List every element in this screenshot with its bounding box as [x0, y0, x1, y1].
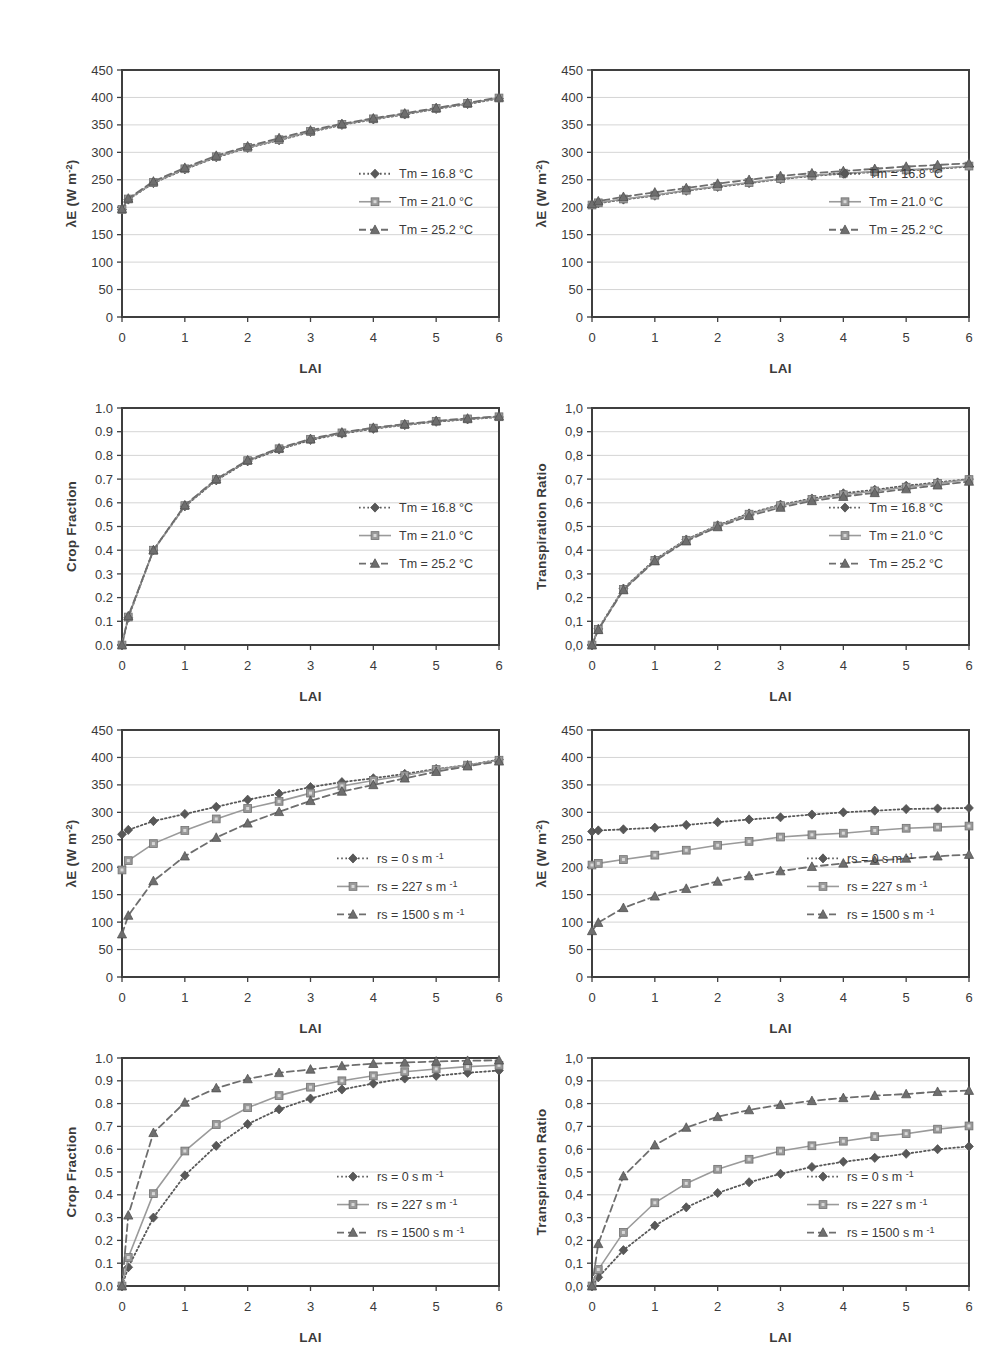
legend-label: Tm = 25.2 °C	[869, 557, 943, 571]
y-tick-label: 300	[91, 145, 113, 160]
data-point	[124, 857, 132, 865]
legend-label: Tm = 16.8 °C	[399, 167, 473, 181]
legend: Tm = 16.8 °CTm = 21.0 °CTm = 25.2 °C	[359, 501, 473, 571]
y-tick-label: 250	[561, 832, 583, 847]
x-axis-title: LAI	[299, 361, 321, 376]
data-point	[934, 1125, 942, 1133]
y-axis-title: Crop Fraction	[64, 1126, 79, 1217]
legend-marker	[349, 1201, 357, 1209]
legend: Tm = 16.8 °CTm = 21.0 °CTm = 25.2 °C	[829, 167, 943, 237]
svg-text:λE (W m-2): λE (W m-2)	[534, 820, 549, 888]
legend: rs = 0 s m -1rs = 227 s m -1rs = 1500 s …	[807, 851, 935, 922]
chart-panel: 0501001502002503003504004500123456LAIλE …	[60, 40, 515, 395]
legend-label: Tm = 16.8 °C	[869, 167, 943, 181]
data-series	[587, 1086, 973, 1290]
data-point	[965, 822, 973, 830]
x-tick-label: 3	[307, 658, 314, 673]
y-axis: 050100150200250300350400450	[91, 723, 122, 985]
data-point	[307, 1083, 315, 1091]
y-tick-label: 0.5	[95, 1165, 113, 1180]
data-series	[118, 1066, 504, 1291]
data-point	[651, 1199, 659, 1207]
y-axis-title: Crop Fraction	[64, 481, 79, 572]
x-tick-label: 5	[433, 1299, 440, 1314]
x-axis: 0123456	[588, 1286, 972, 1314]
y-tick-label: 300	[561, 145, 583, 160]
legend-marker	[349, 883, 357, 891]
legend-label: Tm = 16.8 °C	[399, 501, 473, 515]
data-point	[650, 1140, 659, 1149]
svg-text:λE (W m-2): λE (W m-2)	[534, 160, 549, 228]
x-tick-label: 4	[840, 990, 847, 1005]
data-point	[745, 838, 753, 846]
x-tick-label: 4	[370, 1299, 377, 1314]
x-axis-title: LAI	[769, 361, 791, 376]
y-axis-title: Transpiration Ratio	[534, 1109, 549, 1236]
x-tick-label: 0	[588, 1299, 595, 1314]
y-tick-label: 0	[106, 310, 113, 325]
y-tick-label: 0.0	[95, 638, 113, 653]
y-tick-label: 350	[91, 117, 113, 132]
data-point	[870, 1153, 879, 1162]
y-tick-label: 0.8	[95, 1096, 113, 1111]
y-tick-label: 0,0	[565, 1279, 583, 1294]
y-axis: 0,00,10,20,30,40,50,60,70,80,91,0	[565, 1051, 592, 1294]
x-tick-label: 2	[714, 658, 721, 673]
y-tick-label: 250	[91, 832, 113, 847]
data-point	[124, 1254, 132, 1262]
data-point	[306, 1094, 315, 1103]
legend-marker	[819, 854, 828, 863]
y-tick-label: 1,0	[565, 1051, 583, 1066]
chart-svg: 0.00.10.20.30.40.50.60.70.80.91.00123456…	[60, 1028, 515, 1364]
data-point	[180, 851, 189, 860]
y-tick-label: 450	[561, 723, 583, 738]
x-tick-label: 3	[777, 990, 784, 1005]
y-tick-label: 150	[91, 887, 113, 902]
legend-marker	[819, 1201, 827, 1209]
x-tick-label: 1	[181, 330, 188, 345]
data-point	[902, 1149, 911, 1158]
y-tick-label: 0,0	[565, 638, 583, 653]
data-point	[150, 1190, 158, 1198]
data-point	[275, 789, 284, 798]
legend-marker	[371, 198, 379, 206]
legend-marker	[371, 503, 380, 512]
data-point	[594, 859, 602, 867]
y-axis: 050100150200250300350400450	[91, 63, 122, 325]
data-point	[117, 929, 126, 938]
x-tick-label: 6	[495, 1299, 502, 1314]
data-point	[149, 817, 158, 826]
legend-marker	[371, 532, 379, 540]
x-tick-label: 4	[840, 330, 847, 345]
data-point	[181, 1147, 189, 1155]
legend-label: Tm = 25.2 °C	[869, 223, 943, 237]
x-tick-label: 1	[181, 1299, 188, 1314]
x-tick-label: 6	[495, 330, 502, 345]
y-tick-label: 0.7	[95, 1119, 113, 1134]
y-tick-label: 0,9	[565, 1073, 583, 1088]
legend: Tm = 16.8 °CTm = 21.0 °CTm = 25.2 °C	[359, 167, 473, 237]
legend-label: rs = 227 s m -1	[847, 879, 928, 894]
y-tick-label: 50	[569, 282, 583, 297]
chart-svg: 0501001502002503003504004500123456LAIλE …	[530, 700, 985, 1055]
data-point	[212, 833, 221, 842]
x-axis-title: LAI	[299, 1330, 321, 1345]
data-point	[933, 1145, 942, 1154]
y-tick-label: 100	[561, 255, 583, 270]
x-tick-label: 5	[903, 1299, 910, 1314]
y-tick-label: 0.3	[95, 567, 113, 582]
legend-label: Tm = 21.0 °C	[869, 195, 943, 209]
x-tick-label: 5	[903, 658, 910, 673]
chart-svg: 0501001502002503003504004500123456LAIλE …	[60, 700, 515, 1055]
chart-panel: 0501001502002503003504004500123456LAIλE …	[60, 700, 515, 1055]
y-tick-label: 450	[561, 63, 583, 78]
y-tick-label: 0.4	[95, 543, 113, 558]
x-tick-label: 1	[651, 658, 658, 673]
y-tick-label: 0,8	[565, 448, 583, 463]
legend-label: rs = 227 s m -1	[377, 879, 458, 894]
x-tick-label: 6	[965, 990, 972, 1005]
data-point	[714, 841, 722, 849]
svg-text:λE (W m-2): λE (W m-2)	[64, 160, 79, 228]
x-tick-label: 4	[840, 658, 847, 673]
data-point	[745, 1155, 753, 1163]
